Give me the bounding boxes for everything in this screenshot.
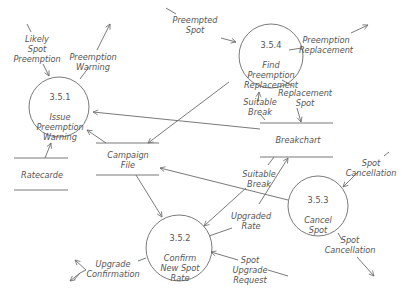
process-name: Cancel Spot — [304, 215, 332, 235]
process-name: Issue Preemption Warning — [36, 112, 83, 142]
flow-spot-cancellation-in: Spot Cancellation — [346, 158, 397, 178]
flow-preempted-spot: Preempted Spot — [173, 15, 218, 35]
process-number: 3.5.1 — [36, 92, 83, 102]
process-number: 3.5.3 — [304, 195, 332, 205]
flow-preemption-replacement: Preemption Replacement — [299, 35, 353, 55]
flow-suitable-break-to-3-5-4: Suitable Break — [243, 97, 276, 117]
process-number: 3.5.2 — [160, 233, 199, 243]
process-3-5-2: 3.5.2 Confirm New Spot Rate — [160, 223, 199, 283]
data-store-breakchart: Breakchart — [275, 135, 320, 145]
flow-upgrade-confirmation: Upgrade Confirmation — [86, 259, 139, 279]
process-3-5-4: 3.5.4 Find Preemption Replacement — [244, 30, 298, 90]
data-store-campaign-file: Campaign File — [107, 150, 149, 170]
flow-suitable-break-to-3-5-2: Suitable Break — [242, 169, 275, 189]
data-store-ratecarde: Ratecarde — [21, 170, 63, 180]
flow-spot-cancellation-out: Spot Cancellation — [325, 235, 376, 255]
flow-likely-spot-preemption: Likely Spot Preemption — [13, 34, 60, 64]
process-number: 3.5.4 — [244, 40, 298, 50]
flow-preemption-warning: Preemption Warning — [69, 52, 116, 72]
process-name: Find Preemption Replacement — [244, 60, 298, 90]
data-flow-diagram: 3.5.1 Issue Preemption Warning 3.5.4 Fin… — [0, 0, 402, 295]
process-name: Confirm New Spot Rate — [160, 253, 199, 283]
process-3-5-1: 3.5.1 Issue Preemption Warning — [36, 82, 83, 142]
flow-upgraded-rate: Upgraded Rate — [231, 211, 271, 231]
flow-replacement-spot: Replacement Spot — [278, 88, 332, 108]
flow-spot-upgrade-request: Spot Upgrade Request — [232, 255, 267, 285]
process-3-5-3: 3.5.3 Cancel Spot — [304, 185, 332, 235]
